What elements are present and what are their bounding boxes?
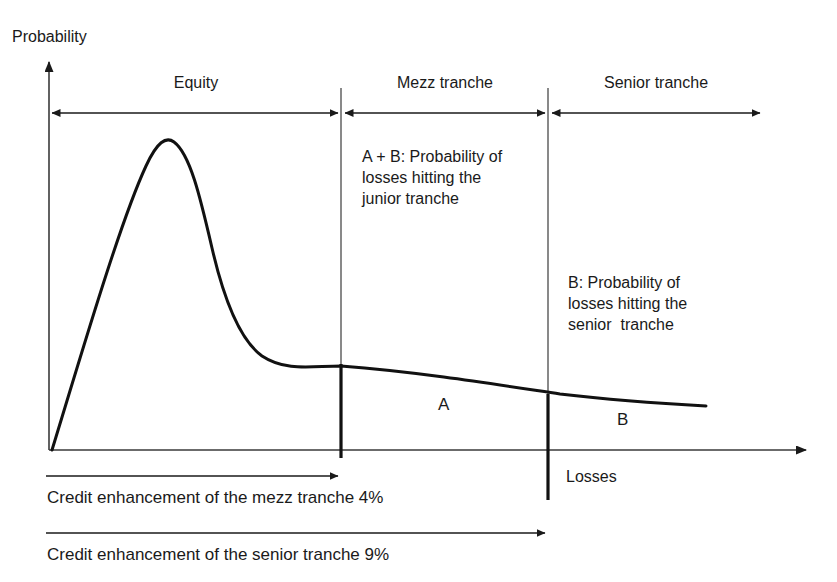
junior-tranche-probability-note: A + B: Probability of losses hitting the…	[362, 146, 502, 209]
tranche-label-equity: Equity	[52, 72, 340, 93]
region-label-a: A	[438, 394, 449, 416]
senior-credit-enhancement-label: Credit enhancement of the senior tranche…	[47, 544, 389, 566]
senior-tranche-probability-note: B: Probability of losses hitting the sen…	[568, 272, 687, 335]
y-axis-title: Probability	[12, 26, 87, 47]
tranche-label-senior: Senior tranche	[552, 72, 760, 93]
region-label-b: B	[617, 409, 628, 431]
tranche-label-mezz: Mezz tranche	[345, 72, 545, 93]
mezz-credit-enhancement-label: Credit enhancement of the mezz tranche 4…	[47, 487, 383, 509]
x-axis-title: Losses	[566, 466, 617, 487]
tranche-loss-distribution-figure: Probability Losses Equity Mezz tranche S…	[0, 0, 837, 582]
